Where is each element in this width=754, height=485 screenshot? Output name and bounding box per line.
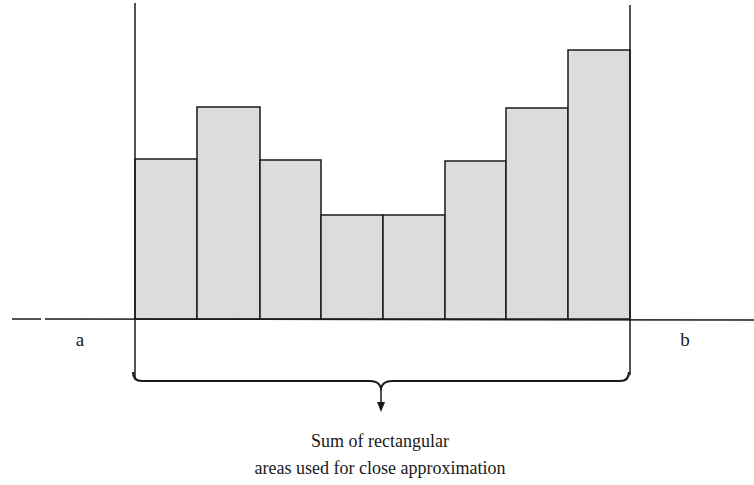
rectangle-3: [260, 160, 321, 319]
caption-line-1: Sum of rectangular: [311, 431, 449, 451]
caption-line-2: areas used for close approximation: [255, 458, 506, 478]
arrow-down-icon: [377, 402, 385, 412]
x-axis: [45, 319, 754, 320]
rectangle-6: [445, 161, 506, 319]
rectangle-8: [568, 50, 630, 319]
rectangle-4: [321, 215, 383, 319]
rectangle-5: [383, 215, 445, 319]
label-b: b: [680, 329, 690, 350]
rectangle-1: [135, 159, 197, 319]
label-a: a: [76, 329, 85, 350]
curly-brace-icon: [133, 372, 629, 388]
riemann-sum-diagram: a b Sum of rectangular areas used for cl…: [0, 0, 754, 485]
rectangle-7: [506, 108, 568, 319]
rectangles-group: [135, 50, 630, 319]
rectangle-2: [197, 107, 260, 319]
